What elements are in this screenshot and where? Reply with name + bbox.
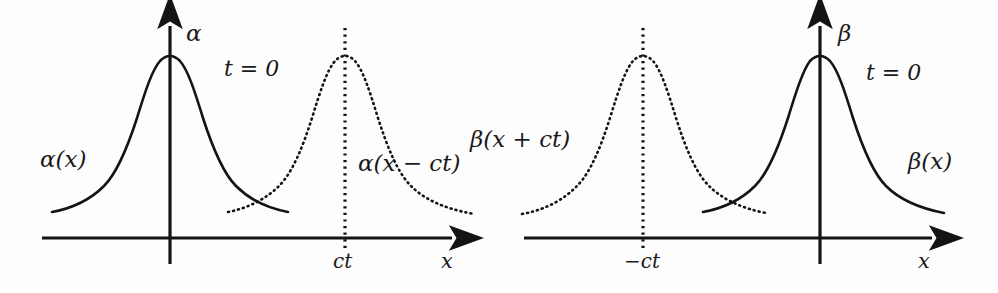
right-beta-curve-label: β(x): [908, 150, 952, 173]
right-x-axis-label: x: [918, 251, 930, 272]
left-alpha-shifted-curve-label: α(x − ct): [358, 152, 460, 175]
right-beta-shifted-curve-label: β(x + ct): [470, 128, 570, 151]
right-beta-axis-label: β: [838, 22, 851, 45]
left-alpha-axis-label: α: [186, 22, 202, 45]
left-alpha-curve-label: α(x): [40, 148, 86, 171]
left-time-label: t = 0: [224, 58, 279, 80]
left-ct-tick-label: ct: [333, 251, 352, 271]
right-negative-ct-tick-label: −ct: [624, 251, 660, 271]
right-time-label: t = 0: [866, 62, 921, 84]
wave-propagation-figure: α t = 0 α(x) α(x − ct) ct x β t = 0 β(x …: [0, 0, 998, 293]
left-x-axis-label: x: [441, 251, 453, 272]
